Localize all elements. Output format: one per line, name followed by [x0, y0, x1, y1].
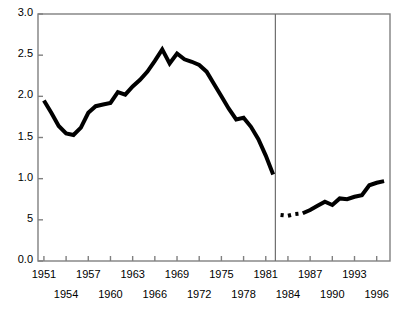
- x-axis-tick-label: 1972: [174, 288, 224, 300]
- y-axis-tick-label: 1.0: [0, 171, 33, 183]
- x-axis-tick-label: 1951: [19, 268, 69, 280]
- y-axis-tick-label: 1.5: [0, 130, 33, 142]
- x-axis-tick-label: 1993: [330, 268, 380, 280]
- x-axis-tick-label: 1960: [85, 288, 135, 300]
- x-axis-tick-label: 1978: [219, 288, 269, 300]
- data-line-series-2: [303, 181, 384, 213]
- y-axis-tick-label: 5: [0, 212, 33, 224]
- x-axis-tick-label: 1996: [352, 288, 402, 300]
- chart-container: 3.02.52.01.51.050.0195119541957196019631…: [0, 0, 406, 313]
- x-axis-tick-label: 1987: [285, 268, 335, 280]
- y-axis-tick-label: 2.0: [0, 88, 33, 100]
- data-line-series-1: [44, 49, 273, 174]
- x-axis-tick-label: 1966: [130, 288, 180, 300]
- x-axis-tick-label: 1957: [63, 268, 113, 280]
- x-axis-tick-label: 1963: [108, 268, 158, 280]
- y-axis-tick-label: 3.0: [0, 6, 33, 18]
- x-axis-tick-label: 1969: [152, 268, 202, 280]
- x-axis-tick-label: 1981: [241, 268, 291, 280]
- plot-frame: [38, 14, 390, 261]
- x-axis-tick-label: 1990: [307, 288, 357, 300]
- x-axis-tick-label: 1954: [41, 288, 91, 300]
- line-chart-plot: [0, 0, 406, 313]
- data-line-series-2: [288, 215, 291, 216]
- x-axis-tick-label: 1975: [196, 268, 246, 280]
- y-axis-tick-label: 2.5: [0, 47, 33, 59]
- y-axis-tick-label: 0.0: [0, 253, 33, 265]
- x-axis-tick-label: 1984: [263, 288, 313, 300]
